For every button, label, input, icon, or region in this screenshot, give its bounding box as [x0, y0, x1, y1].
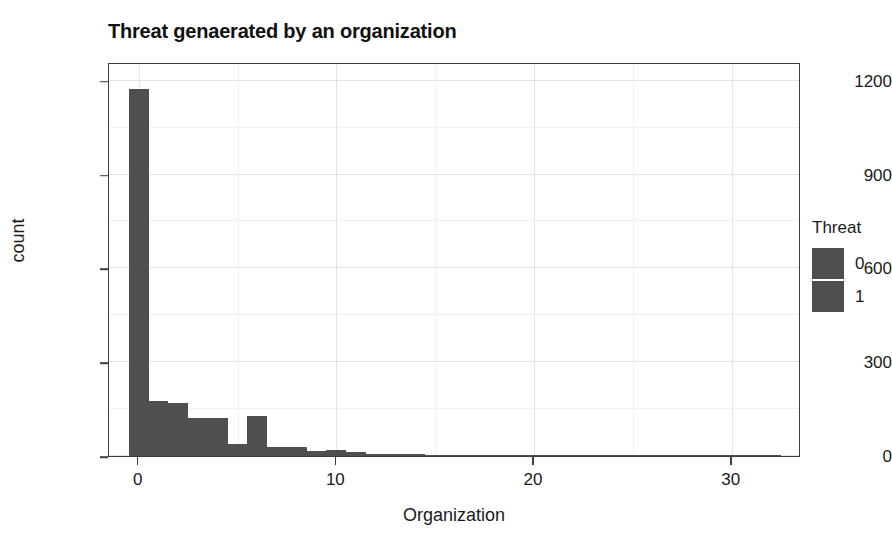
histogram-bar: [326, 450, 346, 456]
histogram-bar: [247, 416, 267, 456]
histogram-bar: [465, 455, 485, 456]
histogram-bar: [307, 451, 327, 456]
legend-swatch: [812, 281, 844, 312]
gridline-vertical-minor: [435, 64, 436, 456]
x-tick-label: 30: [701, 470, 761, 490]
legend-items: 01: [812, 247, 864, 313]
histogram-bar: [504, 455, 524, 456]
gridline-horizontal: [109, 267, 799, 268]
histogram-bar: [584, 455, 604, 456]
gridline-horizontal: [109, 80, 799, 81]
gridline-vertical: [732, 64, 733, 456]
histogram-bar: [386, 454, 406, 457]
legend-swatch: [812, 248, 844, 279]
gridline-horizontal-minor: [109, 314, 799, 315]
x-tick-label: 0: [108, 470, 168, 490]
gridline-horizontal-minor: [109, 220, 799, 221]
histogram-bar: [129, 89, 149, 456]
x-tick-label: 20: [503, 470, 563, 490]
gridline-vertical: [534, 64, 535, 456]
y-tick-label: 1200: [834, 72, 892, 92]
gridline-vertical: [336, 64, 337, 456]
gridline-horizontal: [109, 174, 799, 175]
histogram-bar: [524, 455, 544, 456]
histogram-bar: [663, 455, 683, 456]
histogram-bar: [603, 455, 623, 456]
y-tick-mark: [100, 175, 108, 177]
histogram-bar: [761, 455, 781, 456]
legend-item-1[interactable]: 1: [812, 280, 864, 313]
x-tick-mark: [137, 457, 139, 465]
chart-title: Threat genaerated by an organization: [108, 20, 456, 43]
histogram-bar: [544, 455, 564, 456]
x-tick-mark: [730, 457, 732, 465]
y-tick-label: 300: [834, 353, 892, 373]
histogram-bar: [564, 455, 584, 456]
histogram-bar: [208, 418, 228, 456]
legend-item-0[interactable]: 0: [812, 247, 864, 280]
histogram-bar: [346, 452, 366, 456]
gridline-vertical-minor: [633, 64, 634, 456]
histogram-bar: [406, 454, 426, 456]
histogram-bar: [228, 444, 248, 456]
gridline-vertical-minor: [238, 64, 239, 456]
x-tick-label: 10: [305, 470, 365, 490]
legend-title: Threat: [812, 218, 864, 238]
histogram-bar: [425, 455, 445, 456]
histogram-bar: [149, 401, 169, 456]
y-tick-label: 900: [834, 166, 892, 186]
histogram-bar: [742, 455, 762, 456]
histogram-bar: [287, 447, 307, 456]
plot-panel: [108, 63, 800, 457]
y-tick-mark: [100, 81, 108, 83]
histogram-bar: [682, 455, 702, 456]
x-tick-mark: [532, 457, 534, 465]
legend-label: 0: [855, 254, 864, 274]
histogram-bar: [702, 455, 722, 456]
histogram-bar: [267, 447, 287, 456]
histogram-bar: [168, 403, 188, 456]
y-tick-mark: [100, 269, 108, 271]
gridline-horizontal-minor: [109, 127, 799, 128]
gridline-horizontal-minor: [109, 408, 799, 409]
gridline-horizontal: [109, 361, 799, 362]
y-tick-label: 0: [834, 447, 892, 467]
histogram-bar: [485, 455, 505, 456]
y-axis-title: count: [8, 171, 29, 311]
x-tick-mark: [335, 457, 337, 465]
y-tick-mark: [100, 362, 108, 364]
histogram-bar: [722, 455, 742, 456]
legend-label: 1: [855, 287, 864, 307]
chart-figure: Threat genaerated by an organization 030…: [0, 0, 892, 560]
x-axis-title: Organization: [108, 505, 800, 526]
histogram-bar: [643, 455, 663, 456]
histogram-bar: [445, 455, 465, 456]
histogram-bar: [188, 418, 208, 456]
y-tick-mark: [100, 456, 108, 458]
legend: Threat 01: [812, 218, 864, 313]
histogram-bar: [366, 454, 386, 457]
histogram-bar: [623, 455, 643, 456]
